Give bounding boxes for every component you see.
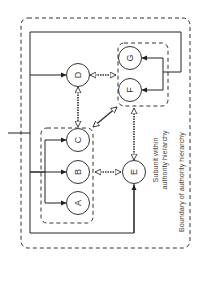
node-f: F [119, 79, 142, 102]
authority-hierarchy-diagram: A B C D E F G Subunit within authority h… [0, 0, 200, 282]
node-c-label: C [73, 136, 83, 143]
node-a-label: A [73, 200, 83, 206]
node-e: E [123, 161, 146, 184]
boundary-caption: Boundary of authority hierarchy [177, 132, 186, 232]
node-c: C [67, 129, 90, 152]
node-b: B [67, 161, 90, 184]
node-d-label: D [73, 71, 83, 78]
node-g-label: G [125, 54, 135, 61]
subunit-caption-line1: Subunit within [151, 138, 160, 183]
node-g: G [119, 47, 142, 70]
node-b-label: B [73, 169, 83, 175]
node-a: A [67, 192, 90, 215]
node-d: D [67, 64, 90, 87]
subunit-caption-line2: authority hierarchy [160, 130, 169, 190]
node-f-label: F [125, 87, 135, 93]
link-abc-fg [93, 107, 117, 127]
node-e-label: E [129, 169, 139, 175]
